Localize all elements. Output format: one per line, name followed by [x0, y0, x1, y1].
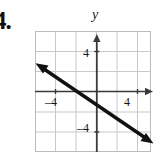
y-axis-name-label: y: [92, 8, 98, 22]
x-axis-tick-label-negative-4: –4: [45, 96, 57, 108]
graph-figure: 4. y: [0, 0, 163, 154]
x-axis-tick-label-positive-4: 4: [124, 96, 130, 108]
y-axis-tick-label-negative-4: –4: [77, 122, 89, 134]
y-axis-tick-label-positive-4: 4: [83, 47, 89, 59]
problem-number-label: 4.: [0, 8, 11, 33]
